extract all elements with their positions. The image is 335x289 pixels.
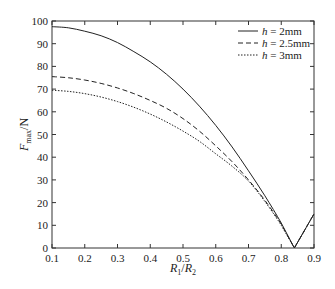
- series-line-1: [52, 77, 314, 248]
- y-tick-label: 80: [37, 60, 49, 72]
- y-axis-label: Fmax/N: [17, 118, 33, 152]
- y-tick-label: 10: [37, 219, 49, 231]
- legend-item: h = 2.5mm: [262, 37, 311, 49]
- y-tick-label: 0: [43, 242, 49, 254]
- x-tick-label: 0.2: [78, 252, 92, 264]
- series-line-2: [52, 90, 314, 248]
- legend-item: h = 2mm: [262, 25, 302, 37]
- x-axis-label: R1/R2: [169, 261, 196, 277]
- legend-item: h = 3mm: [262, 49, 302, 61]
- x-tick-label: 0.9: [307, 252, 321, 264]
- line-chart: 0.10.20.30.40.50.60.70.80.90102030405060…: [0, 0, 335, 289]
- y-tick-label: 100: [32, 15, 49, 27]
- x-tick-label: 0.4: [143, 252, 157, 264]
- x-tick-label: 0.3: [111, 252, 125, 264]
- x-tick-label: 0.7: [242, 252, 256, 264]
- y-tick-label: 70: [37, 83, 49, 95]
- y-tick-label: 50: [37, 129, 49, 141]
- x-tick-label: 0.8: [274, 252, 288, 264]
- x-tick-label: 0.6: [209, 252, 223, 264]
- y-tick-label: 30: [37, 174, 49, 186]
- y-tick-label: 60: [37, 106, 49, 118]
- y-tick-label: 40: [37, 151, 49, 163]
- y-tick-label: 20: [37, 197, 49, 209]
- y-tick-label: 90: [37, 38, 49, 50]
